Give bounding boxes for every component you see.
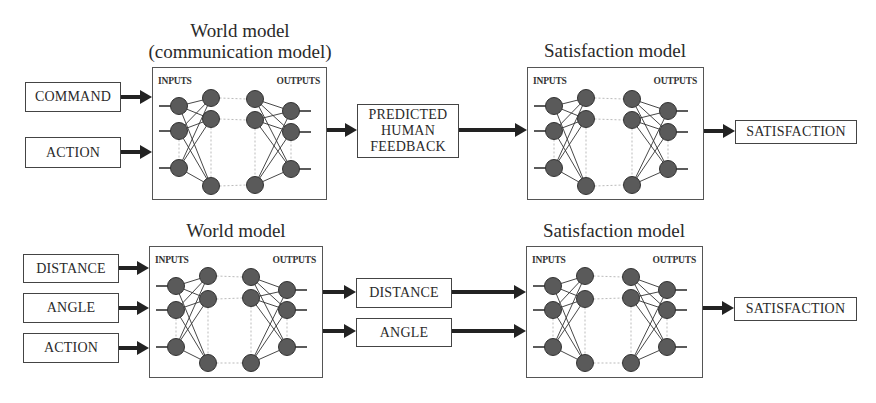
arrow-icon [452, 324, 526, 338]
arrow-icon [459, 123, 527, 137]
diagram-canvas: World model (communication model) INPUTS… [0, 0, 876, 403]
arrow-icon [119, 341, 149, 355]
arrow-icon [323, 285, 356, 299]
arrow-icon [703, 301, 734, 315]
arrow-icon [119, 301, 149, 315]
arrow-icon [119, 261, 149, 275]
arrow-icon [323, 324, 356, 338]
arrow-icon [121, 145, 152, 159]
arrow-icon [704, 124, 735, 138]
arrow-icon [452, 285, 526, 299]
arrow-icon [121, 90, 152, 104]
arrow-icon [327, 123, 357, 137]
arrows-layer [0, 0, 876, 403]
